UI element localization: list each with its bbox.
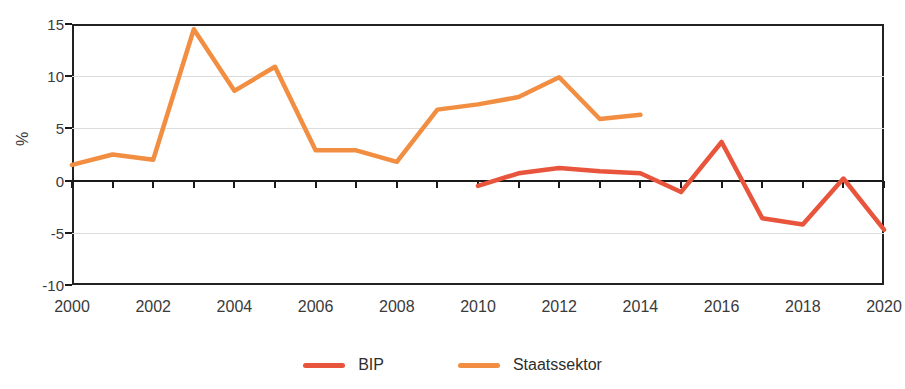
x-tick-label: 2004 [217,298,253,316]
x-tick-label: 2008 [379,298,415,316]
x-tick-label: 2010 [460,298,496,316]
y-tick-label: -5 [51,224,64,241]
legend-item-bip[interactable]: BIP [303,356,384,374]
x-tick-label: 2018 [785,298,821,316]
y-tick-label: -10 [42,277,64,294]
x-tick-label: 2016 [704,298,740,316]
x-tick-label: 2002 [135,298,171,316]
legend-swatch-bip [303,363,345,368]
chart-legend: BIP Staatssektor [0,352,905,378]
legend-label-bip: BIP [358,356,384,374]
x-tick-label: 2000 [54,298,90,316]
x-axis-labels: 2000200220042006200820102012201420162018… [72,298,884,322]
plot-area [72,24,884,285]
y-tick [65,75,72,77]
x-tick-label: 2014 [623,298,659,316]
y-axis-labels: 151050-5-10 [0,24,64,285]
y-tick [65,23,72,25]
clipped-title-remnant [0,0,905,9]
x-tick-label: 2006 [298,298,334,316]
x-tick-label: 2020 [866,298,902,316]
series-line-staatssektor [72,29,640,165]
y-tick [65,232,72,234]
series-line-bip [478,142,884,230]
y-tick-label: 5 [56,120,64,137]
y-tick [65,284,72,286]
line-chart: % 151050-5-10 20002002200420062008201020… [0,0,905,389]
x-tick-label: 2012 [541,298,577,316]
y-tick-label: 10 [47,68,64,85]
legend-item-staatssektor[interactable]: Staatssektor [458,356,602,374]
data-series-layer [72,24,884,285]
y-tick-label: 0 [56,172,64,189]
y-tick [65,127,72,129]
legend-label-staatssektor: Staatssektor [513,356,602,374]
legend-swatch-staatssektor [458,363,500,368]
y-tick-label: 15 [47,16,64,33]
